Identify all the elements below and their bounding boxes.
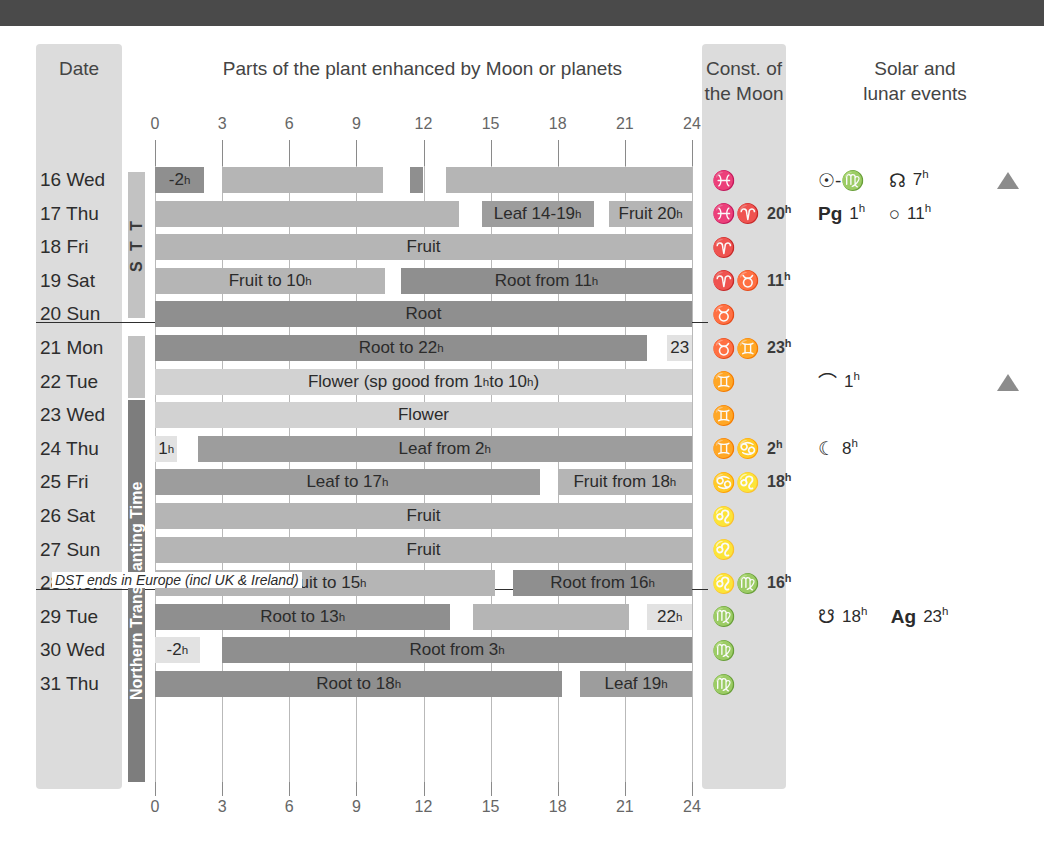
chart-bar-segment: Fruit from 18h (558, 469, 692, 495)
chart-bar-segment: 1h (155, 436, 177, 462)
chart-bar-segment (410, 167, 423, 193)
chart-bar-segment (155, 201, 459, 227)
zodiac-icon: ♓ (712, 169, 736, 192)
axis-tick-mark (558, 782, 559, 796)
constellation-cell: ♌ (702, 503, 788, 529)
event-cell: ☾8h (818, 436, 1033, 462)
chart-gridline (692, 166, 693, 782)
event-hour: 11h (907, 204, 931, 224)
axis-tick-label-top: 18 (538, 115, 578, 133)
constellation-cell: ♌ (702, 537, 788, 563)
event-hour: 1h (849, 204, 865, 224)
chart-bar-segment: Fruit to 10h (155, 268, 385, 294)
event-symbol-icon: ☉-♍ (818, 169, 865, 192)
axis-tick-label-top: 15 (471, 115, 511, 133)
date-label: 30 Wed (40, 640, 130, 660)
chart-bar-segment: Root (155, 301, 692, 327)
constellation-hour: 23h (767, 339, 791, 357)
axis-tick-label-top: 9 (336, 115, 376, 133)
axis-tick-mark (491, 782, 492, 796)
event-symbol-icon: ⌒ (818, 368, 837, 395)
date-label: 17 Thu (40, 204, 130, 224)
zodiac-icon: ♌ (712, 538, 736, 561)
triangle-marker-icon (997, 172, 1019, 189)
zodiac-icon: ♉ (712, 303, 736, 326)
chart-bar-segment: -2h (155, 167, 204, 193)
constellation-cell: ♉ (702, 301, 788, 327)
chart-bar-segment: 22h (647, 604, 692, 630)
constellation-cell: ♍ (702, 637, 788, 663)
header-constellation-line2: the Moon (700, 81, 788, 106)
triangle-marker-icon (997, 374, 1019, 391)
chart-bar-segment: -2h (155, 637, 200, 663)
period-label-stt: S T T (128, 172, 145, 318)
date-label: 25 Fri (40, 472, 130, 492)
chart-bar-segment: Leaf 19h (580, 671, 692, 697)
chart-bar-segment: Leaf to 17h (155, 469, 540, 495)
constellation-hour: 18h (767, 473, 791, 491)
zodiac-icon: ♍ (712, 605, 736, 628)
axis-tick-mark (222, 782, 223, 796)
axis-tick-mark (692, 782, 693, 796)
constellation-cell: ♓ (702, 167, 788, 193)
chart-bar-segment: Root from 16h (513, 570, 692, 596)
zodiac-icon: ♌ (712, 505, 736, 528)
zodiac-icon: ♍ (712, 673, 736, 696)
zodiac-icon: ♈♉ (712, 269, 760, 292)
chart-bar-segment: Root from 3h (222, 637, 692, 663)
axis-tick-mark (356, 782, 357, 796)
header-date: Date (36, 56, 122, 81)
event-cell: ☋18h Ag23h (818, 604, 1033, 630)
zodiac-icon: ♋♌ (712, 471, 760, 494)
zodiac-icon: ♊ (712, 370, 736, 393)
zodiac-icon: ♌♍ (712, 572, 760, 595)
chart-bar-segment: Fruit 20h (609, 201, 692, 227)
axis-tick-label-bottom: 12 (404, 798, 444, 816)
constellation-cell: ♊ (702, 369, 788, 395)
date-label: 29 Tue (40, 607, 130, 627)
axis-tick-label-bottom: 6 (269, 798, 309, 816)
constellation-cell: ♈♉11h (702, 268, 788, 294)
zodiac-icon: ♉♊ (712, 337, 760, 360)
date-label: 20 Sun (40, 304, 130, 324)
event-hour: 1h (844, 372, 860, 392)
axis-tick-mark (424, 140, 425, 166)
constellation-cell: ♍ (702, 671, 788, 697)
header-constellation-line1: Const. of (700, 56, 788, 81)
axis-tick-label-bottom: 3 (202, 798, 242, 816)
date-label: 24 Thu (40, 439, 130, 459)
axis-tick-label-top: 6 (269, 115, 309, 133)
zodiac-icon: ♊ (712, 404, 736, 427)
chart-bar-segment: Leaf 14-19h (482, 201, 594, 227)
date-label: 27 Sun (40, 540, 130, 560)
event-hour: 7h (913, 170, 929, 190)
constellation-hour: 20h (767, 205, 791, 223)
chart-bar-segment (473, 604, 630, 630)
axis-tick-mark (356, 140, 357, 166)
axis-tick-label-bottom: 24 (672, 798, 712, 816)
chart-bar-segment: Flower (sp good from 1h to 10h) (155, 369, 692, 395)
event-symbol-icon: ○ (889, 203, 900, 225)
zodiac-icon: ♓♈ (712, 202, 760, 225)
date-label: 31 Thu (40, 674, 130, 694)
event-symbol-icon: Ag (891, 606, 916, 628)
header-events-line1: Solar and (800, 56, 1030, 81)
date-label: 26 Sat (40, 506, 130, 526)
event-symbol-icon: Pg (818, 203, 842, 225)
chart-bar-segment (222, 167, 383, 193)
chart-bar-segment: 23 (667, 335, 692, 361)
constellation-cell: ♓♈20h (702, 201, 788, 227)
period-label-northern-transplanting-time: Northern Transplanting Time (128, 400, 145, 782)
period-label-spacer (128, 336, 145, 398)
header-constellation: Const. of the Moon (700, 56, 788, 106)
date-label: 22 Tue (40, 372, 130, 392)
axis-tick-mark (692, 140, 693, 166)
constellation-cell: ♌♍16h (702, 570, 788, 596)
chart-bar-segment: Fruit (155, 537, 692, 563)
axis-tick-label-top: 12 (404, 115, 444, 133)
chart-bar-segment: Root to 18h (155, 671, 562, 697)
chart-bar-segment: Root to 13h (155, 604, 450, 630)
axis-tick-label-bottom: 9 (336, 798, 376, 816)
event-hour: 23h (923, 607, 948, 627)
axis-tick-mark (155, 140, 156, 166)
